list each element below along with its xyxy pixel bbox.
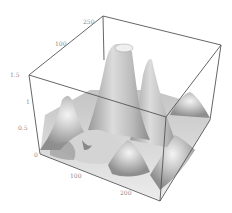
z-tick-label: 0 [34,151,38,158]
central-peak-top [115,44,133,52]
z-axis-labels: 1.5 1 0.5 0 [10,71,38,158]
bottom-tick-label: 200 [120,189,132,196]
back-tick-label: 100 [55,40,67,47]
bottom-tick-label: 100 [70,172,82,179]
z-tick-label: 1.5 [10,71,20,78]
z-tick-label: 1 [26,98,30,105]
far-right-peak [170,92,210,118]
surface [40,44,210,200]
surface-plot-3d: 1.5 1 0.5 0 250 100 100 200 [0,0,232,213]
z-tick-label: 0.5 [18,124,28,131]
back-tick-label: 250 [83,18,95,25]
back-axis-labels: 250 100 [55,18,95,47]
